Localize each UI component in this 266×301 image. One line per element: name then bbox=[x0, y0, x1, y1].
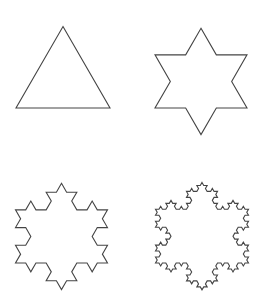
koch-iteration-0 bbox=[16, 27, 110, 108]
koch-iteration-1 bbox=[155, 28, 247, 134]
koch-snowflake-diagram bbox=[0, 0, 266, 301]
koch-iteration-2 bbox=[16, 183, 108, 289]
koch-iteration-3 bbox=[156, 182, 249, 289]
